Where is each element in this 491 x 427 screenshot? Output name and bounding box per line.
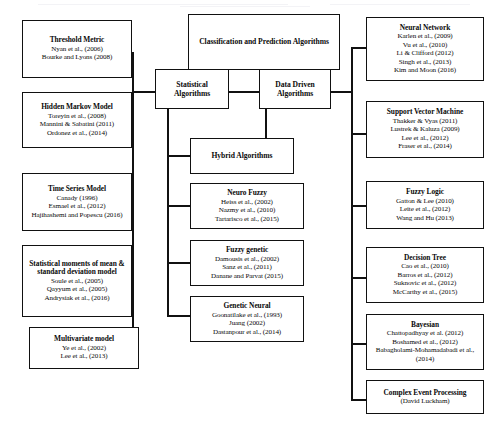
node-reference: Leite et al., (2012)	[400, 205, 451, 213]
connector-bus-to-bayesian	[351, 343, 367, 345]
node-reference: Vu et al., (2010)	[403, 41, 448, 49]
connector-statistical-left-stub	[132, 91, 156, 93]
node-reference: Esmael et al., (2012)	[49, 202, 106, 210]
node-reference: Cao et al., (2010)	[401, 262, 449, 270]
node-title: Hybrid Algorithms	[212, 151, 273, 160]
node-reference: Babagholami-Mohamadabadi et al., (2014)	[369, 346, 481, 363]
node-reference: Heiss et al., (2002)	[221, 198, 273, 206]
node-complex-event-processing[interactable]: Complex Event Processing (David Luckham)	[366, 380, 484, 414]
node-threshold-metric[interactable]: Threshold Metric Nyan et al., (2006) Bou…	[22, 20, 132, 78]
node-title: Time Series Model	[48, 185, 106, 194]
node-reference: Lee et al., (2012)	[402, 134, 449, 142]
scan-artifact	[38, 4, 288, 5]
connector-bus-to-complex-event-processing	[351, 399, 367, 401]
node-support-vector-machine[interactable]: Support Vector Machine Thakker & Vyas (2…	[366, 101, 484, 158]
node-reference: Canady (1996)	[56, 194, 97, 202]
node-title: Statistical moments of mean & standard d…	[25, 260, 129, 277]
node-reference: Qayyum et al., (2005)	[47, 285, 107, 293]
node-statistical-algorithms[interactable]: Statistical Algorithms	[155, 69, 229, 109]
node-title: Decision Tree	[404, 254, 446, 263]
node-reference: Juang (2002)	[229, 319, 265, 327]
node-reference: Wang and Hu (2013)	[396, 214, 454, 222]
connector-bus-to-neural-network	[351, 47, 367, 49]
node-title: Neural Network	[400, 24, 450, 33]
node-reference: Bourke and Lyons (2008)	[42, 53, 112, 61]
node-reference: Gatton & Lee (2010)	[396, 197, 454, 205]
node-reference: Hajihashemi and Popescu (2016)	[32, 211, 123, 219]
node-title: Support Vector Machine	[387, 108, 463, 117]
node-reference: Nyan et al., (2006)	[51, 45, 102, 53]
node-reference: Soule et al., (2005)	[51, 277, 103, 285]
node-title: Bayesian	[411, 321, 439, 330]
node-hidden-markov-model[interactable]: Hidden Markov Model Toreyin et al., (200…	[22, 92, 132, 148]
node-reference: Toreyin et al., (2008)	[48, 112, 106, 120]
connector-hybrid-bus	[167, 108, 169, 316]
node-time-series-model[interactable]: Time Series Model Canady (1996) Esmael e…	[22, 173, 132, 231]
node-neuro-fuzzy[interactable]: Neuro Fuzzy Heiss et al., (2002) Nazmy e…	[190, 183, 304, 229]
connector-bus-to-fuzzy-logic	[351, 205, 367, 207]
node-data-driven-algorithms[interactable]: Data Driven Algorithms	[259, 69, 331, 109]
node-hybrid-algorithms[interactable]: Hybrid Algorithms	[190, 138, 294, 174]
connector-statistical-bus	[132, 52, 134, 342]
node-title: Fuzzy genetic	[226, 246, 268, 255]
node-bayesian[interactable]: Bayesian Chattopadhyay et al. (2012) Bos…	[366, 314, 484, 370]
node-reference: Mannini & Sabatini (2011)	[40, 120, 114, 128]
node-title: Multivariate model	[54, 335, 114, 344]
node-reference: Karlen et al., (2009)	[397, 32, 452, 40]
node-title: Statistical Algorithms	[158, 80, 226, 98]
connector-hybrid-bus-to-hybrid-algorithms	[167, 155, 191, 157]
node-reference: Sanz et al., (2011)	[222, 263, 272, 271]
node-reference: Lee et al., (2013)	[61, 352, 108, 360]
node-multivariate-model[interactable]: Multivariate model Ye et al., (2002) Lee…	[29, 327, 139, 369]
node-title: Fuzzy Logic	[406, 188, 444, 197]
node-reference: Ye et al., (2002)	[62, 344, 106, 352]
node-title: Classification and Prediction Algorithms	[199, 37, 329, 46]
node-reference: (David Luckham)	[400, 397, 449, 405]
node-title: Genetic Neural	[223, 302, 270, 311]
node-reference: Damousis et al., (2002)	[215, 255, 279, 263]
node-reference: McCarthy et al., (2015)	[393, 288, 457, 296]
node-reference: Danane and Parvat (2015)	[211, 272, 283, 280]
node-reference: Ordonez et al., (2014)	[47, 129, 107, 137]
connector-hybrid-bus-to-fuzzy-genetic	[167, 262, 191, 264]
node-reference: Fraser et al., (2014)	[398, 142, 452, 150]
scan-artifact	[180, 6, 310, 7]
node-reference: Andrysiak et al., (2016)	[44, 294, 109, 302]
node-reference: Boshamed et al., (2012)	[392, 338, 458, 346]
connector-bus-to-decision-tree	[351, 277, 367, 279]
connector-bus-to-support-vector-machine	[351, 133, 367, 135]
node-decision-tree[interactable]: Decision Tree Cao et al., (2010) Barros …	[366, 247, 484, 303]
node-reference: Chattopadhyay et al. (2012)	[387, 329, 464, 337]
connector-data-driven-bus	[351, 47, 353, 399]
node-reference: Thakker & Vyas (2011)	[393, 117, 458, 125]
node-reference: Suknovic et al., (2012)	[394, 279, 457, 287]
node-reference: Nazmy et al., (2010)	[219, 206, 276, 214]
node-title: Neuro Fuzzy	[227, 189, 267, 198]
node-fuzzy-genetic[interactable]: Fuzzy genetic Damousis et al., (2002) Sa…	[190, 240, 304, 286]
node-classification-and-prediction-algorithms[interactable]: Classification and Prediction Algorithms	[188, 14, 340, 70]
node-neural-network[interactable]: Neural Network Karlen et al., (2009) Vu …	[366, 17, 484, 81]
node-reference: Li & Clifford (2012)	[397, 49, 454, 57]
node-reference: Dastanpour et al., (2014)	[213, 328, 281, 336]
node-statistical-moments-model[interactable]: Statistical moments of mean & standard d…	[22, 245, 132, 317]
connector-hybrid-bus-to-neuro-fuzzy	[167, 205, 191, 207]
node-title: Hidden Markov Model	[41, 103, 113, 112]
scan-artifact	[330, 4, 470, 5]
node-title: Data Driven Algorithms	[262, 80, 328, 98]
node-reference: Singh et al., (2013)	[399, 58, 452, 66]
diagram-canvas: Classification and Prediction Algorithms…	[0, 0, 491, 427]
node-title: Complex Event Processing	[384, 389, 467, 398]
node-reference: Barros et al., (2012)	[398, 271, 453, 279]
node-reference: Tartarisco et al., (2015)	[215, 215, 279, 223]
node-genetic-neural[interactable]: Genetic Neural Goonatilake et al., (1993…	[190, 296, 304, 342]
connector-hybrid-bus-to-genetic-neural	[167, 315, 191, 317]
node-reference: Goonatilake et al., (1993)	[212, 311, 282, 319]
node-reference: Lustrek & Kaluza (2009)	[390, 125, 459, 133]
node-fuzzy-logic[interactable]: Fuzzy Logic Gatton & Lee (2010) Leite et…	[366, 181, 484, 229]
connector-data-driven-right-stub	[328, 91, 352, 93]
node-reference: Kim and Moon (2016)	[394, 66, 456, 74]
node-title: Threshold Metric	[50, 36, 105, 45]
